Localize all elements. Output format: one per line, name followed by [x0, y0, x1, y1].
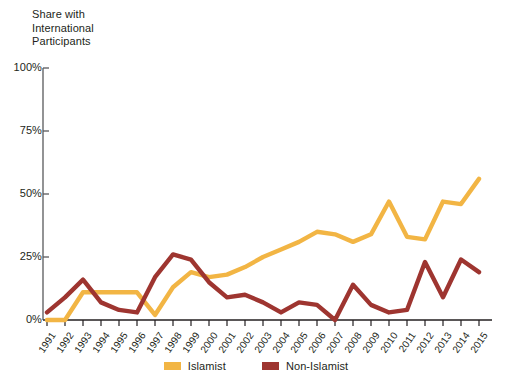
legend-item-non-islamist[interactable]: Non-Islamist	[262, 360, 348, 372]
y-tick-label: 25%	[0, 250, 42, 262]
legend-swatch-non-islamist	[262, 362, 279, 370]
legend-label-non-islamist: Non-Islamist	[286, 360, 348, 372]
legend-swatch-islamist	[164, 362, 181, 370]
legend-label-islamist: Islamist	[188, 360, 226, 372]
chart-legend: Islamist Non-Islamist	[0, 360, 512, 372]
series-line-non-islamist	[47, 254, 479, 320]
legend-item-islamist[interactable]: Islamist	[164, 360, 226, 372]
chart-container: Share with International Participants 0%…	[0, 0, 512, 385]
y-tick-label: 75%	[0, 124, 42, 136]
series-line-islamist	[47, 179, 479, 320]
axis-layer	[43, 68, 492, 326]
series-layer	[47, 179, 479, 320]
chart-plot-area	[0, 0, 512, 385]
y-tick-label: 100%	[0, 61, 42, 73]
y-tick-label: 0%	[0, 313, 42, 325]
y-tick-label: 50%	[0, 187, 42, 199]
